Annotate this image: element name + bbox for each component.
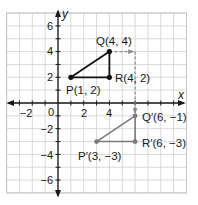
label-p: P(1, 2)	[66, 84, 101, 96]
point-p	[68, 75, 73, 80]
y-tick-label-neg2: −2	[40, 123, 53, 135]
point-q	[107, 49, 112, 54]
label-q: Q(4, 4)	[96, 35, 132, 47]
label-q-prime: Q′(6, −1)	[142, 111, 187, 123]
label-r-prime: R′(6, −3)	[142, 137, 186, 149]
y-tick-label-neg4: −4	[40, 149, 53, 161]
x-tick-label-2: 2	[81, 107, 87, 119]
y-tick-label-6: 6	[47, 20, 53, 32]
y-tick-label-neg6: −6	[40, 174, 53, 186]
point-p-prime	[94, 139, 99, 144]
coordinate-plane: x y −2 0 2 4 6 4 2 −2 −4 −6 P(1, 2) Q(4,…	[0, 0, 198, 205]
y-tick-label-4: 4	[47, 45, 53, 57]
point-q-prime	[133, 113, 138, 118]
y-tick-label-2: 2	[47, 71, 53, 83]
x-tick-label-neg2: −2	[20, 107, 33, 119]
x-axis-label: x	[177, 88, 185, 102]
label-p-prime: P′(3, −3)	[78, 150, 122, 162]
x-tick-label-4: 4	[106, 107, 112, 119]
label-r: R(4, 2)	[115, 72, 150, 84]
x-tick-label-0: 0	[48, 106, 54, 118]
y-axis-label: y	[61, 7, 69, 21]
point-r-prime	[133, 139, 138, 144]
point-r	[107, 75, 112, 80]
